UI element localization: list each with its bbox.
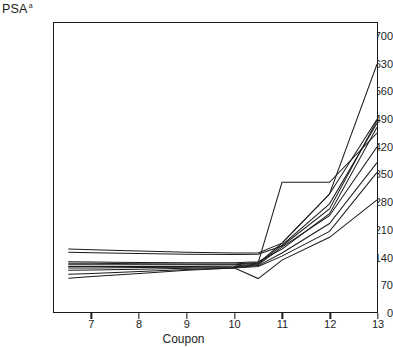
y-axis-title: PSAa (2, 2, 33, 16)
x-axis-title: Coupon (0, 332, 393, 346)
x-tick-label: 13 (372, 318, 384, 330)
x-tick-label: 10 (228, 318, 240, 330)
line-series (68, 127, 377, 263)
line-series-group (54, 23, 377, 312)
x-tick-mark (282, 313, 283, 319)
line-series (68, 123, 377, 266)
x-tick-mark (138, 313, 139, 319)
y-axis-title-superscript: a (29, 2, 33, 9)
line-series (68, 119, 377, 264)
x-tick-mark (91, 313, 92, 319)
line-series (68, 121, 377, 255)
line-series (68, 133, 377, 264)
plot-area (53, 22, 378, 313)
x-tick-mark (330, 313, 331, 319)
y-axis-title-text: PSA (2, 2, 28, 16)
line-series (68, 64, 377, 253)
chart-container: PSAa 070140210280350420490560630700 7891… (0, 0, 393, 347)
x-tick-mark (377, 313, 378, 319)
x-tick-label: 8 (136, 318, 142, 330)
x-tick-label: 7 (88, 318, 94, 330)
x-tick-label: 9 (184, 318, 190, 330)
x-tick-mark (234, 313, 235, 319)
x-tick-mark (186, 313, 187, 319)
x-tick-label: 12 (324, 318, 336, 330)
line-series (68, 172, 377, 274)
x-tick-label: 11 (277, 318, 288, 330)
x-axis-title-text: Coupon (162, 332, 204, 346)
